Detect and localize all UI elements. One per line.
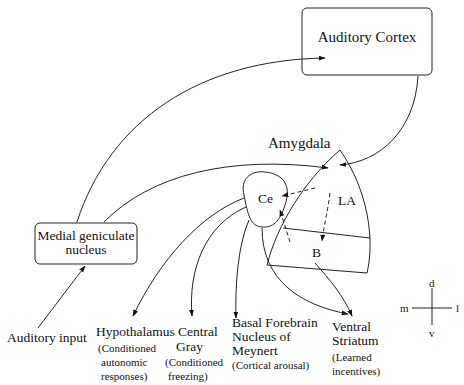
basal-forebrain-label-1: Basal Forebrain [232,315,318,330]
la-label: LA [338,193,356,208]
edge-la-to-b [322,193,330,241]
central-gray-note-1: (Conditioned [165,356,224,369]
basal-forebrain-note: (Cortical arousal) [232,359,310,372]
edge-input-to-mgn [38,266,85,328]
basal-forebrain-label-3: Meynert [232,343,278,358]
ventral-striatum-label-1: Ventral [332,319,371,334]
diagram-canvas: Auditory Cortex Medial geniculate nucleu… [0,0,464,385]
compass-ventral: v [429,327,435,339]
compass-lateral: l [456,302,459,314]
amygdala-label: Amygdala [268,135,331,151]
output-ventral-striatum: Ventral Striatum (Learned incentives) [332,319,381,378]
medial-geniculate-label-2: nucleus [65,242,106,257]
edge-ce-to-central-gray [191,207,246,316]
ventral-striatum-label-2: Striatum [332,333,379,348]
orientation-compass: d v m l [400,277,459,339]
compass-medial: m [400,302,409,314]
edge-cortex-to-la [340,76,418,165]
medial-geniculate-label-1: Medial geniculate [37,228,134,243]
compass-dorsal: d [429,277,435,289]
hypothalamus-note-3: responses) [101,370,148,383]
auditory-cortex-label: Auditory Cortex [318,29,417,45]
hypothalamus-label: Hypothalamus [96,324,175,339]
edge-ce-to-hypothalamus [133,198,244,316]
medial-geniculate-node: Medial geniculate nucleus [35,223,137,264]
central-gray-note-2: freezing) [168,370,208,383]
central-gray-label-2: Gray [176,339,203,354]
hypothalamus-note-2: autonomic [101,356,148,368]
central-gray-label-1: Central [178,324,218,339]
auditory-cortex-node: Auditory Cortex [302,8,432,75]
basal-forebrain-label-2: Nucleus of [232,329,291,344]
ce-nucleus: Ce [243,172,287,227]
auditory-input-label: Auditory input [7,330,87,345]
edge-ce-to-basal-forebrain [236,220,249,318]
output-hypothalamus: Hypothalamus (Conditioned autonomic resp… [96,324,175,383]
hypothalamus-note-1: (Conditioned [98,342,157,355]
output-basal-forebrain: Basal Forebrain Nucleus of Meynert (Cort… [232,315,318,372]
ventral-striatum-note-2: incentives) [332,365,381,378]
ce-label: Ce [258,191,273,206]
b-label: B [312,245,321,260]
ventral-striatum-note-1: (Learned [332,351,372,364]
